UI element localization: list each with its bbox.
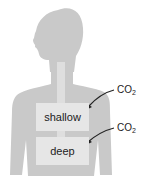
shallow-region: shallow: [36, 103, 89, 131]
body-diagram: shallow deep CO2 CO2: [0, 0, 146, 187]
shallow-label: shallow: [44, 112, 81, 123]
deep-region: deep: [36, 137, 89, 165]
co2-label-deep: CO2: [117, 123, 136, 134]
co2-label-shallow: CO2: [117, 85, 136, 96]
deep-label: deep: [50, 146, 74, 157]
